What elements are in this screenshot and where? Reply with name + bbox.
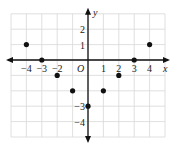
data-point [70, 88, 75, 93]
x-axis-label: x [162, 63, 168, 74]
coordinate-plane: −4−3−2123421−3−4 x y O [0, 0, 173, 145]
origin-label: O [77, 63, 84, 74]
y-tick-label: −3 [74, 101, 85, 112]
x-tick-label: 2 [116, 63, 121, 74]
x-tick-label: −4 [21, 63, 32, 74]
tick-labels: −4−3−2123421−3−4 [21, 24, 152, 127]
data-point [55, 73, 60, 78]
data-point [147, 42, 152, 47]
data-point [101, 88, 106, 93]
y-tick-label: 1 [80, 40, 85, 51]
data-point [116, 73, 121, 78]
x-tick-label: −3 [36, 63, 47, 74]
x-tick-label: 1 [101, 63, 106, 74]
y-tick-label: −4 [74, 117, 85, 128]
data-point [132, 57, 137, 62]
x-tick-label: −2 [52, 63, 63, 74]
data-point [39, 57, 44, 62]
x-tick-label: 3 [132, 63, 137, 74]
data-point [24, 42, 29, 47]
x-tick-label: 4 [147, 63, 152, 74]
data-point [85, 104, 90, 109]
y-tick-label: 2 [80, 24, 85, 35]
y-axis-label: y [92, 7, 98, 18]
